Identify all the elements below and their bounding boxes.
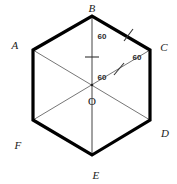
center-point-O xyxy=(91,84,94,87)
vertex-label-B: B xyxy=(89,3,96,14)
angle-label-center: 60 xyxy=(98,74,107,82)
center-label-O: O xyxy=(88,96,96,107)
hexagon-figure: A B C D E F O 60 60 60 xyxy=(0,0,177,184)
angle-label-right: 60 xyxy=(133,54,142,62)
tick-segment-OC xyxy=(114,63,124,75)
vertex-label-A: A xyxy=(12,40,19,51)
vertex-label-E: E xyxy=(93,170,100,181)
vertex-label-C: C xyxy=(160,42,168,53)
angle-label-top: 60 xyxy=(98,33,107,41)
vertex-label-F: F xyxy=(15,140,22,151)
vertex-label-D: D xyxy=(161,128,169,139)
hexagon-diagram-svg xyxy=(0,0,177,184)
